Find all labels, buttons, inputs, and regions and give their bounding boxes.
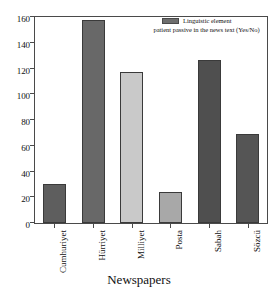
y-axis-tick-label: 100: [17, 90, 34, 102]
x-axis-tick-label: Posta: [174, 230, 184, 250]
y-axis-tick: 20: [21, 191, 34, 203]
bar: [198, 60, 221, 224]
y-axis-tick: 40: [21, 166, 34, 178]
x-axis-tick-mark: [132, 224, 133, 228]
bar: [159, 192, 182, 223]
y-axis-tick-label: 80: [21, 116, 34, 128]
x-axis-title: Newspapers: [0, 272, 278, 288]
bar-slot: [43, 17, 66, 223]
x-axis-tick-label: Sabah: [213, 230, 223, 252]
legend: Linguistic element patient passive in th…: [146, 15, 267, 37]
y-axis: 020406080100120140160: [0, 0, 34, 296]
bar-slot: [82, 17, 105, 223]
y-axis-tick-label: 20: [21, 193, 34, 205]
x-axis-tick-label: Cumhuriyet: [58, 230, 68, 273]
bar: [82, 20, 105, 223]
y-axis-tick: 140: [17, 37, 34, 49]
y-axis-tick: 60: [21, 140, 34, 152]
legend-entry: Linguistic element: [149, 17, 264, 25]
x-axis: CumhuriyetHürriyetMilliyetPostaSabahSözc…: [35, 224, 267, 274]
y-axis-tick: 80: [21, 114, 34, 126]
x-axis-tick-label: Sözcü: [252, 230, 262, 252]
bar: [43, 184, 66, 223]
y-axis-tick: 160: [17, 11, 34, 23]
x-axis-tick-mark: [170, 224, 171, 228]
legend-swatch-icon: [162, 18, 179, 24]
x-axis-tick-mark: [54, 224, 55, 228]
bar-slot: [236, 17, 259, 223]
bar-slot: [159, 17, 182, 223]
y-axis-tick-label: 160: [17, 13, 34, 25]
bars-group: [35, 17, 267, 223]
bar-chart-figure: 020406080100120140160 CumhuriyetHürriyet…: [0, 0, 278, 296]
y-axis-tick-label: 140: [17, 39, 34, 51]
bar: [236, 134, 259, 223]
y-axis-tick-label: 120: [17, 65, 34, 77]
y-axis-tick-label: 60: [21, 142, 34, 154]
bar-slot: [198, 17, 221, 223]
legend-label-line2: patient passive in the news text (Yes/No…: [149, 25, 264, 34]
x-axis-tick-mark: [248, 224, 249, 228]
y-axis-tick: 120: [17, 63, 34, 75]
bar-slot: [120, 17, 143, 223]
y-axis-tick: 0: [26, 217, 34, 229]
x-axis-tick-mark: [93, 224, 94, 228]
legend-label-line1: Linguistic element: [183, 17, 232, 25]
x-axis-tick-label: Milliyet: [136, 230, 146, 259]
bar: [120, 72, 143, 223]
y-axis-tick: 100: [17, 88, 34, 100]
y-axis-tick-label: 0: [26, 219, 34, 231]
x-axis-tick-label: Hürriyet: [97, 230, 107, 261]
y-axis-tick-label: 40: [21, 168, 34, 180]
x-axis-tick-mark: [209, 224, 210, 228]
